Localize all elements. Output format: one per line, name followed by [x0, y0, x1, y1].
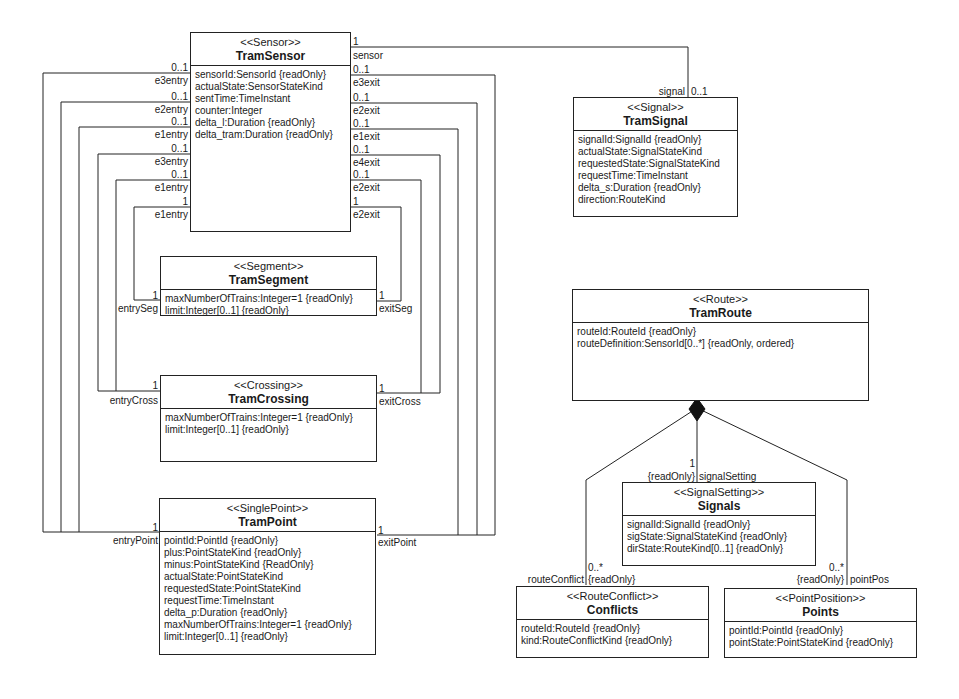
role-label: e3entry: [140, 75, 188, 86]
multiplicity-label: 0..1: [353, 144, 370, 155]
attribute: actualState:SensorStateKind: [195, 81, 346, 93]
attribute: kind:RouteConflictKind {readOnly}: [521, 635, 704, 647]
attribute: maxNumberOfTrains:Integer=1 {readOnly}: [165, 412, 372, 424]
multiplicity-label: 0..1: [353, 118, 370, 129]
attribute-list: signalId:SignalId {readOnly} actualState…: [574, 131, 737, 206]
attribute: delta_s:Duration {readOnly}: [578, 182, 733, 194]
role-label: entryCross: [90, 395, 158, 406]
class-header: <<RouteConflict>> Conflicts: [517, 587, 708, 620]
attribute-list: routeId:RouteId {readOnly} routeDefiniti…: [573, 323, 868, 350]
role-label: sensor: [353, 50, 383, 61]
stereotype-label: <<Segment>>: [161, 260, 376, 273]
class-points[interactable]: <<PointPosition>> Points pointId:PointId…: [724, 588, 917, 658]
role-label: exitSeg: [379, 303, 412, 314]
class-tramsegment[interactable]: <<Segment>> TramSegment maxNumberOfTrain…: [160, 256, 377, 316]
class-header: <<PointPosition>> Points: [725, 589, 916, 622]
multiplicity-label: 1: [379, 383, 385, 394]
attribute: sigState:SignalStateKind {readOnly}: [627, 531, 811, 543]
multiplicity-label: 0..*: [588, 562, 603, 573]
class-trampoint[interactable]: <<SinglePoint>> TramPoint pointId:PointI…: [159, 498, 376, 655]
stereotype-label: <<SinglePoint>>: [160, 502, 375, 515]
role-label: pointPos: [850, 574, 889, 585]
class-signals[interactable]: <<SignalSetting>> Signals signalId:Signa…: [622, 482, 816, 566]
composition-diamond-icon: [689, 398, 705, 421]
attribute: plus:PointStateKind {readOnly}: [164, 547, 371, 559]
attribute: routeDefinition:SensorId[0..*] {readOnly…: [577, 338, 864, 350]
class-tramsignal[interactable]: <<Signal>> TramSignal signalId:SignalId …: [573, 97, 738, 217]
role-label: exitCross: [379, 396, 421, 407]
multiplicity-label: 1: [120, 380, 158, 391]
multiplicity-label: 0..1: [140, 62, 188, 73]
class-name: TramPoint: [160, 515, 375, 529]
role-label: e2entry: [140, 104, 188, 115]
class-header: <<Crossing>> TramCrossing: [161, 376, 376, 409]
attribute-list: pointId:PointId {readOnly} pointState:Po…: [725, 622, 916, 649]
attribute: routeId:RouteId {readOnly}: [521, 623, 704, 635]
attribute-list: pointId:PointId {readOnly} plus:PointSta…: [160, 532, 375, 643]
class-header: <<Sensor>> TramSensor: [191, 33, 350, 66]
attribute-list: routeId:RouteId {readOnly} kind:RouteCon…: [517, 620, 708, 647]
role-label: e1entry: [140, 129, 188, 140]
attribute: limit:Integer[0..1] {readOnly}: [165, 424, 372, 436]
multiplicity-label: 1: [353, 36, 359, 47]
attribute: signalId:SignalId {readOnly}: [578, 134, 733, 146]
attribute: actualState:PointStateKind: [164, 571, 371, 583]
class-name: Conflicts: [517, 603, 708, 617]
multiplicity-label: 0..1: [140, 91, 188, 102]
attribute: dirState:RouteKind[0..1] {readOnly}: [627, 543, 811, 555]
attribute-list: signalId:SignalId {readOnly} sigState:Si…: [623, 516, 815, 555]
multiplicity-label: 1: [378, 525, 384, 536]
class-conflicts[interactable]: <<RouteConflict>> Conflicts routeId:Rout…: [516, 586, 709, 658]
attribute: delta_p:Duration {readOnly}: [164, 607, 371, 619]
multiplicity-label: 1: [379, 290, 385, 301]
attribute: limit:Integer[0..1] {readOnly}: [164, 631, 371, 643]
constraint-label: {readOnly}: [588, 574, 635, 585]
role-label: e2exit: [353, 209, 380, 220]
attribute: requestTime:TimeInstant: [164, 595, 371, 607]
multiplicity-label: 0..1: [140, 143, 188, 154]
attribute: maxNumberOfTrains:Integer=1 {readOnly}: [164, 619, 371, 631]
role-label: e1entry: [140, 182, 188, 193]
attribute-list: sensorId:SensorId {readOnly} actualState…: [191, 66, 350, 141]
class-header: <<SinglePoint>> TramPoint: [160, 499, 375, 532]
multiplicity-label: 0..1: [353, 169, 370, 180]
stereotype-label: <<Route>>: [573, 293, 868, 306]
stereotype-label: <<RouteConflict>>: [517, 590, 708, 603]
stereotype-label: <<Signal>>: [574, 101, 737, 114]
role-label: e4exit: [353, 157, 380, 168]
class-name: TramCrossing: [161, 392, 376, 406]
class-tramsensor[interactable]: <<Sensor>> TramSensor sensorId:SensorId …: [190, 32, 351, 232]
class-name: Points: [725, 605, 916, 619]
attribute-list: maxNumberOfTrains:Integer=1 {readOnly} l…: [161, 409, 376, 436]
attribute: limit:Integer[0..1] {readOnly}: [165, 305, 372, 317]
role-label: e1exit: [353, 131, 380, 142]
stereotype-label: <<Sensor>>: [191, 36, 350, 49]
attribute: pointState:PointStateKind {readOnly}: [729, 637, 912, 649]
multiplicity-label: 1: [650, 458, 695, 469]
attribute: sentTime:TimeInstant: [195, 93, 346, 105]
class-tramcrossing[interactable]: <<Crossing>> TramCrossing maxNumberOfTra…: [160, 375, 377, 462]
multiplicity-label: 0..1: [140, 169, 188, 180]
multiplicity-label: 1: [140, 196, 188, 207]
constraint-label: {readOnly}: [785, 574, 844, 585]
attribute-list: maxNumberOfTrains:Integer=1 {readOnly} l…: [161, 290, 376, 317]
role-label: e1entry: [140, 209, 188, 220]
class-tramroute[interactable]: <<Route>> TramRoute routeId:RouteId {rea…: [572, 289, 869, 401]
attribute: requestedState:PointStateKind: [164, 583, 371, 595]
multiplicity-label: 1: [120, 290, 158, 301]
role-label: e2exit: [353, 105, 380, 116]
role-label: e2exit: [353, 182, 380, 193]
attribute: routeId:RouteId {readOnly}: [577, 326, 864, 338]
role-label: signal: [630, 86, 685, 97]
attribute: delta_l:Duration {readOnly}: [195, 117, 346, 129]
attribute: minus:PointStateKind {ReadOnly}: [164, 559, 371, 571]
attribute: direction:RouteKind: [578, 194, 733, 206]
class-name: Signals: [623, 499, 815, 513]
class-header: <<Signal>> TramSignal: [574, 98, 737, 131]
stereotype-label: <<SignalSetting>>: [623, 486, 815, 499]
multiplicity-label: 0..*: [800, 562, 844, 573]
attribute: sensorId:SensorId {readOnly}: [195, 69, 346, 81]
multiplicity-label: 1: [353, 196, 359, 207]
role-label: entrySeg: [100, 303, 158, 314]
attribute: signalId:SignalId {readOnly}: [627, 519, 811, 531]
